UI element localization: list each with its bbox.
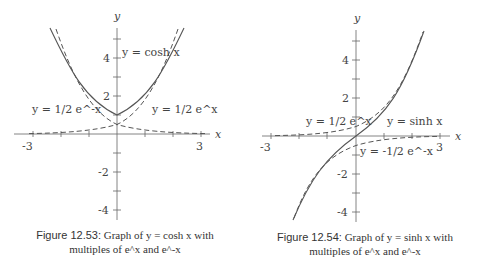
x-tick-label: -3	[22, 140, 33, 153]
curve-label-half-exp-pos: y = 1/2 e^x	[151, 103, 218, 116]
y-tick-label: 4	[103, 52, 110, 65]
x-axis-label: x	[215, 128, 222, 141]
axes	[14, 28, 210, 220]
caption-text-line2: multiples of e^x and e^-x	[69, 243, 181, 255]
y-tick-label: 2	[342, 92, 349, 105]
y-tick-label: 4	[342, 54, 349, 67]
figures-canvas: y x -3 3 4 2 -2 -4 y = cosh x y = 1/2 e^…	[0, 0, 484, 262]
curve-label-half-exp-neg: y = 1/2 e^-x	[31, 103, 102, 116]
y-tick-label: -4	[98, 204, 109, 217]
half-exp-pos-curve	[29, 29, 178, 134]
caption-label: Figure 12.54:	[277, 231, 342, 243]
figure-12-53-caption: Figure 12.53: Graph of y = cosh x with m…	[20, 228, 230, 256]
caption-text: Graph of y = cosh x with	[104, 229, 214, 241]
caption-text-line2: multiples of e^x and e^-x	[309, 245, 421, 257]
y-tick-label: 2	[103, 90, 110, 103]
y-axis-label: y	[113, 10, 121, 23]
caption-text: Graph of y = sinh x with	[345, 231, 453, 243]
y-tick-label: -4	[337, 206, 348, 219]
y-tick-label: -2	[337, 168, 348, 181]
x-axis-label: x	[455, 130, 462, 143]
figure-12-54-plot: y x -3 3 4 2 -2 -4 y = 1/2 e^x y = sinh …	[260, 12, 462, 222]
figure-12-53-plot: y x -3 3 4 2 -2 -4 y = cosh x y = 1/2 e^…	[14, 10, 222, 220]
x-tick-label: 3	[436, 141, 443, 154]
y-tick-label: -2	[98, 166, 109, 179]
x-tick-label: -3	[260, 141, 271, 154]
curve-label-neg-half-exp-neg: y = -1/2 e^-x	[359, 145, 434, 158]
half-exp-neg-curve	[56, 29, 205, 134]
caption-label: Figure 12.53:	[36, 229, 101, 241]
curve-label-sinh: y = sinh x	[386, 115, 443, 128]
curve-label-cosh: y = cosh x	[121, 46, 180, 59]
figure-12-54-caption: Figure 12.54: Graph of y = sinh x with m…	[260, 230, 470, 258]
x-tick-label: 3	[196, 140, 203, 153]
curve-label-half-exp-pos: y = 1/2 e^x	[305, 115, 372, 128]
y-axis-label: y	[353, 12, 361, 25]
